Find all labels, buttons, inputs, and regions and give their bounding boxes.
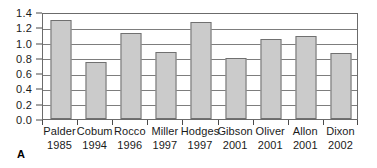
bars-layer (43, 14, 357, 119)
x-axis-label-year: 2001 (217, 138, 252, 152)
bar (331, 53, 352, 119)
x-axis-label-name: Miller (151, 124, 178, 138)
x-axis-label: Gibson2001 (217, 124, 252, 152)
y-tick-label: 0.0 (16, 114, 32, 126)
x-axis-label-year: 1997 (181, 138, 220, 152)
figure-panel-a: 0.00.20.40.60.81.01.21.4 Palder1985Cobum… (0, 0, 377, 168)
bar-slot (113, 14, 148, 119)
x-axis-label-name: Gibson (217, 124, 252, 138)
y-tick-label: 0.8 (16, 53, 32, 65)
bar-slot (254, 14, 289, 119)
x-axis-label-year: 2002 (326, 138, 355, 152)
x-axis-label: Rocco1996 (114, 124, 146, 152)
x-axis-label: Oliver2001 (256, 124, 285, 152)
x-axis-label: Allon2001 (293, 124, 318, 152)
bar (190, 22, 211, 119)
bar (155, 52, 176, 119)
x-axis-label-year: 1994 (77, 138, 113, 152)
bar (226, 58, 247, 119)
bar-slot (43, 14, 78, 119)
bar (85, 62, 106, 119)
y-tick-label: 1.4 (16, 7, 32, 19)
x-axis-label-name: Allon (293, 124, 318, 138)
y-tick-label: 0.2 (16, 99, 32, 111)
x-axis-label-year: 1996 (114, 138, 146, 152)
panel-letter: A (17, 148, 25, 160)
bar-slot (289, 14, 324, 119)
x-axis-label-name: Cobum (77, 124, 113, 138)
bar-slot (148, 14, 183, 119)
x-axis-label: Cobum1994 (77, 124, 113, 152)
x-axis-label-year: 2001 (256, 138, 285, 152)
plot-area (42, 13, 358, 120)
y-tick-label: 1.2 (16, 22, 32, 34)
bar (296, 36, 317, 119)
x-axis-label: Palder1985 (43, 124, 75, 152)
bar-slot (219, 14, 254, 119)
bar (50, 20, 71, 119)
bar-slot (183, 14, 218, 119)
x-axis-label-name: Dixon (326, 124, 355, 138)
x-axis-label-year: 2001 (293, 138, 318, 152)
x-axis-label: Hodges1997 (181, 124, 220, 152)
x-axis-label-name: Rocco (114, 124, 146, 138)
x-axis-label: Miller1997 (151, 124, 178, 152)
bar (261, 39, 282, 119)
bar-slot (324, 14, 359, 119)
x-axis-label-year: 1985 (43, 138, 75, 152)
y-tick-label: 0.6 (16, 68, 32, 80)
y-tick-label: 1.0 (16, 38, 32, 50)
x-axis-label-name: Palder (43, 124, 75, 138)
x-axis-label-name: Hodges (181, 124, 220, 138)
x-axis-label: Dixon2002 (326, 124, 355, 152)
bar (120, 33, 141, 119)
y-tick-label: 0.4 (16, 83, 32, 95)
x-axis-label-name: Oliver (256, 124, 285, 138)
bar-slot (78, 14, 113, 119)
y-axis: 0.00.20.40.60.81.01.21.4 (0, 13, 38, 120)
x-axis-label-year: 1997 (151, 138, 178, 152)
x-axis-labels: Palder1985Cobum1994Rocco1996Miller1997Ho… (42, 124, 358, 158)
